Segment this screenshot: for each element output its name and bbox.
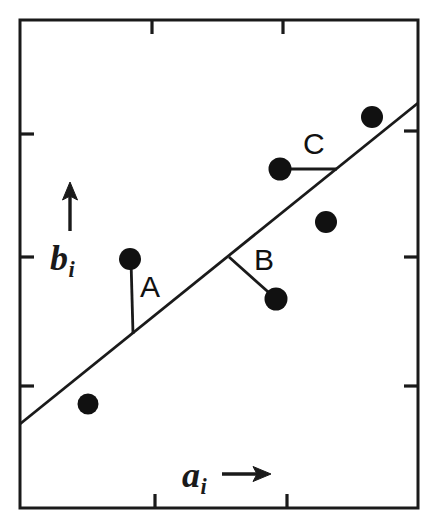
y-axis-label: bi	[50, 240, 75, 281]
annotation-label-a: A	[140, 272, 160, 302]
data-point	[119, 248, 141, 270]
y-axis-label-base: b	[50, 238, 68, 278]
y-axis-label-subscript: i	[69, 257, 75, 282]
data-point	[361, 106, 383, 128]
annotation-label-b: B	[254, 245, 274, 275]
x-axis-label-subscript: i	[201, 474, 207, 499]
x-axis-label-base: a	[182, 455, 200, 495]
residual-segment-a	[131, 260, 133, 334]
x-axis-label: ai	[182, 457, 207, 498]
data-point	[315, 211, 337, 233]
scatter-plot-figure: bi ai A B C	[0, 0, 435, 527]
data-point	[265, 288, 288, 311]
annotation-label-c: C	[303, 129, 325, 159]
data-point	[78, 394, 99, 415]
data-point	[269, 158, 292, 181]
